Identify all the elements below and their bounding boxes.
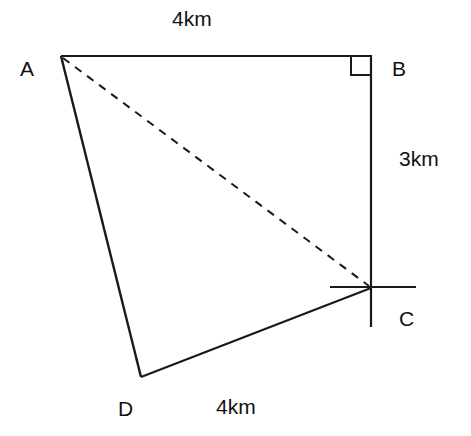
right-angle-marker [351,56,371,75]
edge-label-ab: 4km [172,8,212,29]
point-label-b: B [392,58,406,79]
point-label-a: A [20,58,34,79]
point-label-d: D [118,398,133,419]
edge-dc [141,288,371,377]
edge-label-bc: 3km [399,148,439,169]
edge-label-cd: 4km [216,396,256,417]
edge-ad [61,56,141,377]
point-label-c: C [399,308,414,329]
